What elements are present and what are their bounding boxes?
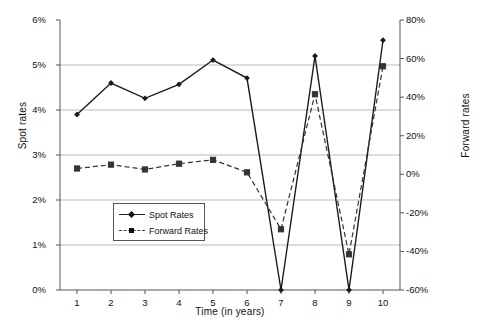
legend-item-forward-rates: Forward Rates xyxy=(119,223,208,239)
y-axis-left-title: Spot rates xyxy=(17,81,28,171)
chart-container: 0%1%2%3%4%5%6% -60%-40%-20%0%20%40%60%80… xyxy=(0,0,485,329)
legend-marker-diamond-icon xyxy=(119,210,145,220)
x-axis-tick-labels: 12345678910 xyxy=(0,0,485,329)
legend: Spot Rates Forward Rates xyxy=(113,203,205,241)
legend-marker-square-icon xyxy=(119,226,145,236)
legend-label-spot-rates: Spot Rates xyxy=(149,210,194,220)
legend-item-spot-rates: Spot Rates xyxy=(119,207,194,223)
y-axis-right-title: Forward rates xyxy=(460,81,471,171)
legend-label-forward-rates: Forward Rates xyxy=(149,226,208,236)
x-axis-title: Time (in years) xyxy=(60,306,400,317)
